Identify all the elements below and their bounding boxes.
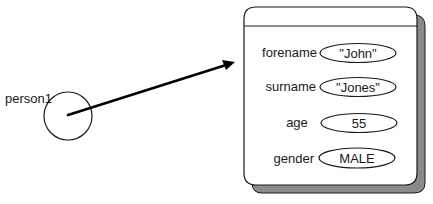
field-value: 55 (352, 116, 366, 131)
reference-arrow (68, 60, 235, 115)
field-value: "John" (339, 46, 377, 61)
field-name: gender (274, 151, 315, 166)
object-reference-diagram: person1 forename "John" surname "Jones" … (0, 0, 433, 204)
field-value: "Jones" (336, 80, 380, 95)
object-box (244, 7, 417, 185)
reference-label: person1 (5, 91, 52, 106)
field-name: age (286, 115, 308, 130)
field-value: MALE (339, 151, 375, 166)
field-name: surname (265, 79, 316, 94)
field-name: forename (262, 45, 317, 60)
